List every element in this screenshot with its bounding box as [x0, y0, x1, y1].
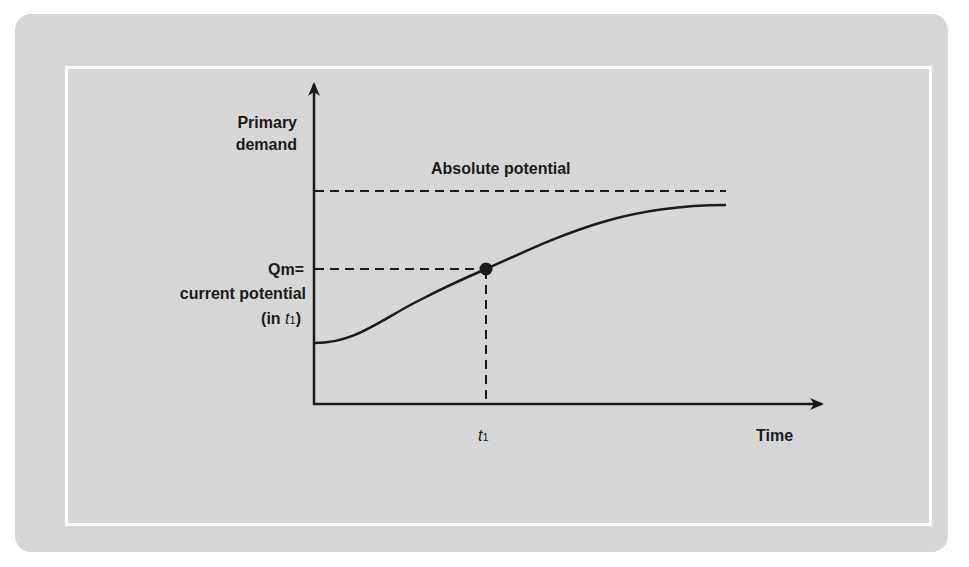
qm-label-line2: current potential	[180, 285, 306, 302]
qm-label-line1: Qm=	[268, 261, 304, 278]
demand-curve	[315, 205, 726, 343]
qm-label-line3: (in t1)	[261, 310, 301, 327]
y-axis-label-2: demand	[236, 136, 297, 153]
current-potential-point	[480, 263, 493, 276]
t1-label: t1	[478, 427, 489, 444]
y-axis-label: Primary	[237, 114, 297, 131]
x-axis-label: Time	[756, 427, 793, 444]
absolute-potential-label: Absolute potential	[431, 160, 571, 177]
demand-potential-diagram: Primary demand Absolute potential Qm= cu…	[0, 0, 969, 567]
